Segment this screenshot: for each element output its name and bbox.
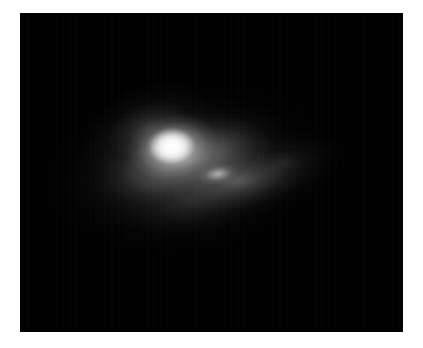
astronomical-image-panel: [20, 13, 403, 332]
figure-alt-text: Grayscale astronomical image of a diffus…: [0, 0, 1, 1]
northeast-wisp-layer: [20, 13, 403, 332]
southern-envelope-layer: [20, 13, 403, 332]
mid-halo-layer: [20, 13, 403, 332]
southeast-plume-layer: [20, 13, 403, 332]
northwest-extension-layer: [20, 13, 403, 332]
outer-halo-layer: [20, 13, 403, 332]
vignette-overlay: [20, 13, 403, 332]
nucleus-layer: [20, 13, 403, 332]
secondary-knot-layer: [20, 13, 403, 332]
core-envelope-layer: [20, 13, 403, 332]
detector-noise-overlay: [20, 13, 403, 332]
figure-root: Grayscale astronomical image of a diffus…: [0, 0, 423, 348]
